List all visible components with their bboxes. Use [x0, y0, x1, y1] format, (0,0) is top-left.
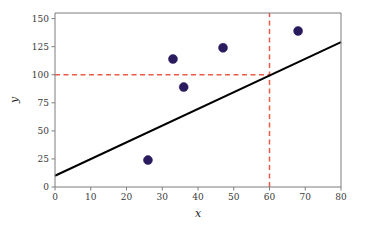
y-tick-label: 100 — [32, 70, 49, 80]
scatter-plot-figure: 01020304050607080 0255075100125150 x y — [0, 0, 365, 234]
data-point — [179, 83, 188, 92]
data-point — [219, 43, 228, 52]
y-tick-label: 50 — [38, 126, 50, 136]
x-tick-label: 40 — [192, 192, 204, 202]
y-tick-label: 150 — [32, 14, 49, 24]
x-tick-label: 50 — [228, 192, 240, 202]
y-axis-title: y — [8, 96, 21, 104]
x-tick-label: 30 — [157, 192, 169, 202]
y-tick-label: 75 — [38, 98, 50, 108]
y-tick-label: 25 — [38, 154, 50, 164]
x-tick-label: 70 — [300, 192, 312, 202]
data-point — [143, 156, 152, 165]
data-point — [294, 26, 303, 35]
data-point — [168, 55, 177, 64]
y-tick-label: 125 — [32, 42, 49, 52]
x-tick-label: 80 — [335, 192, 347, 202]
plot-canvas: 01020304050607080 0255075100125150 x y — [0, 0, 365, 234]
x-tick-label: 0 — [52, 192, 58, 202]
x-tick-label: 60 — [264, 192, 276, 202]
x-tick-label: 20 — [121, 192, 133, 202]
x-axis-title: x — [195, 207, 202, 220]
x-tick-label: 10 — [85, 192, 97, 202]
y-tick-label: 0 — [43, 182, 49, 192]
